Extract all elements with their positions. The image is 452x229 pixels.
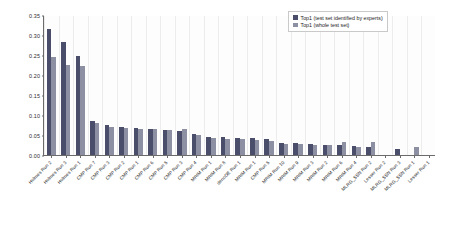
bar-group[interactable] xyxy=(291,16,306,155)
x-axis-tick-mark xyxy=(284,155,285,158)
bar[interactable] xyxy=(342,142,347,155)
bar-group[interactable] xyxy=(204,16,219,155)
x-axis-tick-mark xyxy=(211,155,212,158)
bar[interactable] xyxy=(196,135,201,155)
bar-group[interactable] xyxy=(233,16,248,155)
x-axis-tick-mark xyxy=(109,155,110,158)
bar[interactable] xyxy=(225,139,230,155)
x-axis-tick-mark xyxy=(153,155,154,158)
bar-group[interactable] xyxy=(102,16,117,155)
x-axis-tick-mark xyxy=(400,155,401,158)
x-axis-tick-mark xyxy=(255,155,256,158)
x-axis-tick-mark xyxy=(66,155,67,158)
bar-group[interactable] xyxy=(305,16,320,155)
x-axis-tick-mark xyxy=(298,155,299,158)
bar-group[interactable] xyxy=(320,16,335,155)
bar[interactable] xyxy=(51,57,56,155)
bar[interactable] xyxy=(255,140,260,155)
x-axis-tick-mark xyxy=(124,155,125,158)
bar[interactable] xyxy=(95,123,100,155)
bar-group[interactable] xyxy=(160,16,175,155)
bar-group[interactable] xyxy=(276,16,291,155)
y-axis-tick-mark xyxy=(42,156,45,157)
bar[interactable] xyxy=(124,128,129,155)
plot-area: 0.000.050.100.150.200.250.300.35 xyxy=(43,16,435,156)
bar-group[interactable] xyxy=(421,16,436,155)
x-axis-tick-mark xyxy=(51,155,52,158)
bar[interactable] xyxy=(167,130,172,155)
x-axis-tick-mark xyxy=(240,155,241,158)
bar-group[interactable] xyxy=(392,16,407,155)
x-axis-tick-mark xyxy=(95,155,96,158)
bar[interactable] xyxy=(298,144,303,155)
x-axis-tick-mark xyxy=(196,155,197,158)
x-axis-tick-mark xyxy=(429,155,430,158)
bar-group[interactable] xyxy=(88,16,103,155)
x-axis-tick-mark xyxy=(327,155,328,158)
bar-group[interactable] xyxy=(131,16,146,155)
bar-group[interactable] xyxy=(378,16,393,155)
chart-figure: 0.000.050.100.150.200.250.300.35 Top1 (t… xyxy=(0,0,452,229)
bar-group[interactable] xyxy=(363,16,378,155)
bar-group[interactable] xyxy=(334,16,349,155)
bar-group[interactable] xyxy=(218,16,233,155)
legend-label: Top1 (test set identified by experts) xyxy=(301,15,383,21)
x-axis-tick-mark xyxy=(313,155,314,158)
bar-group[interactable] xyxy=(349,16,364,155)
bar-group[interactable] xyxy=(247,16,262,155)
x-axis-tick-mark xyxy=(182,155,183,158)
bar-group[interactable] xyxy=(44,16,59,155)
x-axis-tick-mark xyxy=(385,155,386,158)
legend-swatch-icon xyxy=(293,15,298,20)
bar-group[interactable] xyxy=(175,16,190,155)
x-axis-tick-mark xyxy=(371,155,372,158)
bar[interactable] xyxy=(313,145,318,155)
legend-item-1: Top1 (whole test set) xyxy=(293,22,383,28)
bar[interactable] xyxy=(211,138,216,155)
x-axis-tick-mark xyxy=(269,155,270,158)
bar[interactable] xyxy=(240,139,245,155)
x-axis-tick-mark xyxy=(414,155,415,158)
bar[interactable] xyxy=(414,147,419,155)
bar[interactable] xyxy=(182,129,187,155)
bar-group[interactable] xyxy=(73,16,88,155)
bar[interactable] xyxy=(109,127,114,155)
bar-group[interactable] xyxy=(59,16,74,155)
bar[interactable] xyxy=(269,141,274,155)
legend-swatch-icon xyxy=(293,23,298,28)
x-axis-tick-mark xyxy=(167,155,168,158)
x-axis-tick-mark xyxy=(342,155,343,158)
bar-group[interactable] xyxy=(189,16,204,155)
bar-group[interactable] xyxy=(407,16,422,155)
x-axis-tick-mark xyxy=(356,155,357,158)
bar[interactable] xyxy=(356,147,361,155)
x-axis-tick-mark xyxy=(80,155,81,158)
bar[interactable] xyxy=(80,66,85,155)
bar[interactable] xyxy=(66,65,71,155)
x-axis-tick-mark xyxy=(225,155,226,158)
x-axis-tick-mark xyxy=(138,155,139,158)
bar[interactable] xyxy=(371,142,376,155)
bar[interactable] xyxy=(284,144,289,155)
bar[interactable] xyxy=(327,145,332,155)
bar-group[interactable] xyxy=(146,16,161,155)
legend-item-0: Top1 (test set identified by experts) xyxy=(293,15,383,21)
chart-legend: Top1 (test set identified by experts) To… xyxy=(288,11,388,32)
bar[interactable] xyxy=(153,129,158,155)
legend-label: Top1 (whole test set) xyxy=(301,22,350,28)
bar-group[interactable] xyxy=(262,16,277,155)
bar[interactable] xyxy=(138,129,143,155)
bar-group[interactable] xyxy=(117,16,132,155)
